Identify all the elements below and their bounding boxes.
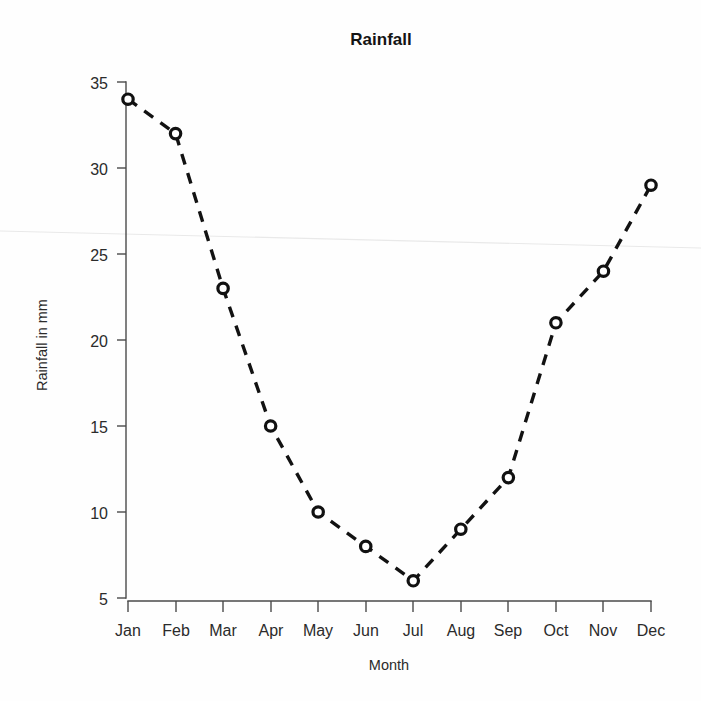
- y-axis-title: Rainfall in mm: [34, 299, 50, 391]
- y-tick-label: 35: [90, 75, 108, 92]
- x-tick-label: Apr: [259, 622, 285, 639]
- chart-figure: Rainfall Rainfall in mm Month 35 30 25 2…: [0, 0, 701, 701]
- data-point-marker: [646, 180, 656, 190]
- data-point-marker: [361, 541, 371, 551]
- data-point-marker: [170, 128, 180, 138]
- x-tick-label: Feb: [162, 622, 190, 639]
- y-axis-ticks: 35 30 25 20 15 10 5: [90, 75, 126, 608]
- x-tick-label: Oct: [544, 622, 569, 639]
- data-point-marker: [313, 507, 323, 517]
- y-tick-label: 15: [90, 419, 108, 436]
- x-tick-label: Nov: [589, 622, 617, 639]
- data-point-marker: [265, 421, 275, 431]
- x-tick-label: Jun: [353, 622, 379, 639]
- x-tick-label: May: [303, 622, 333, 639]
- data-series-rainfall: [123, 94, 656, 586]
- y-tick-label: 10: [90, 505, 108, 522]
- scan-artifact-line: [0, 231, 701, 248]
- rainfall-line-chart: Rainfall Rainfall in mm Month 35 30 25 2…: [0, 0, 701, 701]
- data-point-marker: [218, 283, 228, 293]
- series-markers: [123, 94, 656, 586]
- y-tick-label: 5: [99, 591, 108, 608]
- x-tick-label: Jul: [403, 622, 423, 639]
- x-tick-label: Aug: [447, 622, 475, 639]
- series-line-path: [128, 99, 651, 581]
- chart-title: Rainfall: [350, 30, 411, 49]
- data-point-marker: [408, 576, 418, 586]
- y-tick-label: 20: [90, 333, 108, 350]
- x-axis-ticks: Jan Feb Mar Apr May Jun Jul Aug Sep Oct …: [115, 601, 665, 639]
- x-axis-title: Month: [369, 657, 409, 673]
- data-point-marker: [456, 524, 466, 534]
- data-point-marker: [551, 318, 561, 328]
- x-tick-label: Dec: [637, 622, 665, 639]
- y-tick-label: 25: [90, 247, 108, 264]
- x-tick-label: Jan: [115, 622, 141, 639]
- y-tick-label: 30: [90, 161, 108, 178]
- data-point-marker: [503, 472, 513, 482]
- x-tick-label: Mar: [209, 622, 237, 639]
- data-point-marker: [123, 94, 133, 104]
- data-point-marker: [598, 266, 608, 276]
- x-tick-label: Sep: [494, 622, 523, 639]
